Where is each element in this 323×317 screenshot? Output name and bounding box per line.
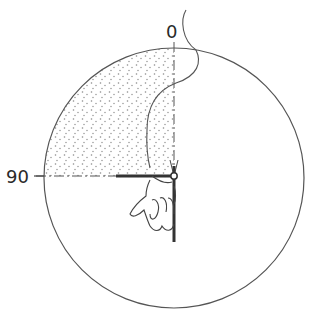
pivot-point xyxy=(171,173,177,179)
goniometry-diagram: 0 90 xyxy=(0,0,323,317)
shaded-range-sector xyxy=(40,45,174,178)
label-zero: 0 xyxy=(166,21,177,42)
hand-illustration xyxy=(130,176,176,231)
label-ninety: 90 xyxy=(6,166,29,187)
